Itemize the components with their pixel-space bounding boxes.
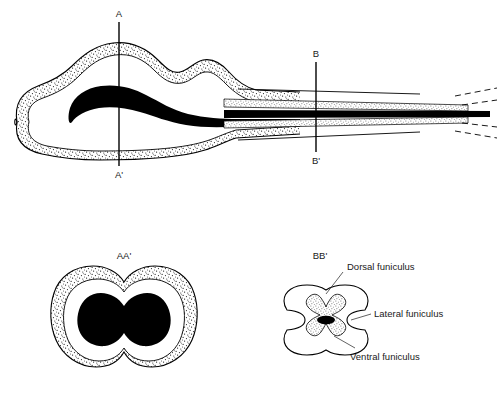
cord-central-canal <box>224 110 490 118</box>
sagittal-view: A A' B B' <box>10 8 497 180</box>
cut-label-b-bottom: B' <box>312 155 320 166</box>
label-ventral-funiculus: Ventral funiculus <box>350 351 420 362</box>
label-dorsal-funiculus: Dorsal funiculus <box>347 261 415 272</box>
section-aa: AA' <box>51 250 197 367</box>
section-bb-title: BB' <box>313 250 328 261</box>
section-bb: BB' Dorsal funiculus Lateral funiculus V… <box>284 250 443 362</box>
cut-label-b-top: B <box>313 48 319 59</box>
anatomy-figure: A A' B B' AA' BB' Dorsal funi <box>0 0 503 396</box>
section-bb-central-canal <box>317 316 335 324</box>
cut-label-a-bottom: A' <box>115 169 123 180</box>
section-aa-title: AA' <box>117 250 132 261</box>
cut-label-a-top: A <box>116 8 123 19</box>
label-lateral-funiculus: Lateral funiculus <box>374 308 443 319</box>
leader-lateral <box>351 314 371 320</box>
rostral-tip <box>15 119 17 125</box>
